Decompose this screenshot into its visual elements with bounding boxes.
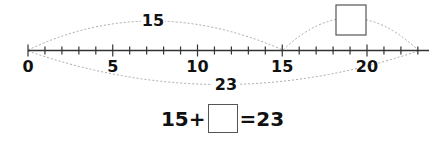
- arc-label-15: 15: [142, 11, 164, 30]
- number-line-diagram: 05101520 15 23 15+ =23: [0, 0, 445, 146]
- equation-left: 15+: [161, 105, 206, 133]
- equation: 15+ =23: [0, 104, 445, 133]
- tick-label-5: 5: [107, 57, 118, 76]
- tick-label-0: 0: [22, 57, 33, 76]
- tick-label-15: 15: [271, 57, 293, 76]
- tick-label-20: 20: [356, 57, 378, 76]
- arc-label-23: 23: [215, 75, 237, 94]
- equation-blank-box[interactable]: [208, 104, 238, 133]
- equation-right: =23: [240, 105, 285, 133]
- tick-labels: 05101520: [22, 57, 378, 76]
- tick-label-10: 10: [186, 57, 208, 76]
- answer-box-arc[interactable]: [336, 5, 366, 35]
